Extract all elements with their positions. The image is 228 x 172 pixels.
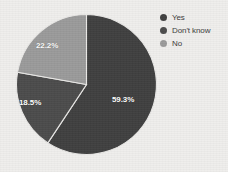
legend-swatch-icon-yes <box>160 14 167 21</box>
slice-label-no: 22.2% <box>36 41 58 50</box>
legend-swatch-icon-dont-know <box>160 27 167 34</box>
legend-item-dont-know[interactable]: Don't know <box>160 24 210 37</box>
pie-svg <box>14 12 159 157</box>
legend-swatch-icon-no <box>160 40 167 47</box>
legend-item-yes[interactable]: Yes <box>160 11 210 24</box>
legend-label-yes: Yes <box>172 13 185 22</box>
slice-label-yes: 59.3% <box>112 95 134 104</box>
pie-chart-figure: 59.3% 18.5% 22.2% Yes Don't know No <box>0 0 228 172</box>
legend-label-no: No <box>172 39 182 48</box>
legend-item-no[interactable]: No <box>160 37 210 50</box>
slice-label-dont-know: 18.5% <box>19 98 41 107</box>
legend-label-dont-know: Don't know <box>172 26 210 35</box>
chart-legend: Yes Don't know No <box>160 11 210 50</box>
